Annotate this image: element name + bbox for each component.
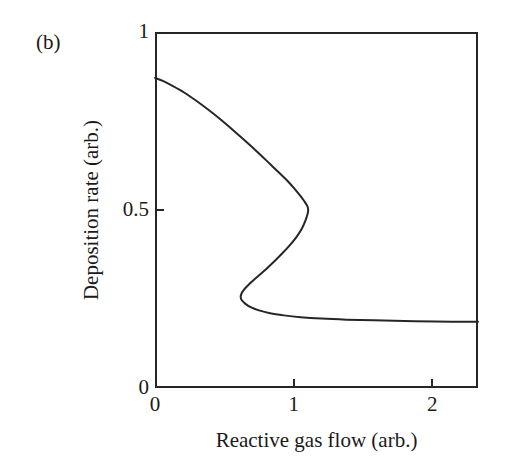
x-axis-label: Reactive gas flow (arb.): [155, 430, 478, 451]
x-tick-2: [431, 379, 433, 388]
chart-curve: [155, 32, 478, 388]
y-tick-label-1: 1: [139, 21, 150, 42]
y-tick-label-0.5: 0.5: [123, 199, 149, 220]
figure-panel-b: (b) 00.51012 Deposition rate (arb.) Reac…: [0, 0, 528, 469]
y-tick-0.5: [155, 209, 164, 211]
x-tick-1: [293, 379, 295, 388]
panel-label: (b): [36, 32, 61, 53]
x-tick-label-1: 1: [274, 394, 314, 415]
x-tick-label-2: 2: [412, 394, 452, 415]
y-axis-label: Deposition rate (arb.): [81, 32, 105, 388]
x-tick-label-0: 0: [135, 394, 175, 415]
deposition-rate-curve: [155, 78, 478, 322]
